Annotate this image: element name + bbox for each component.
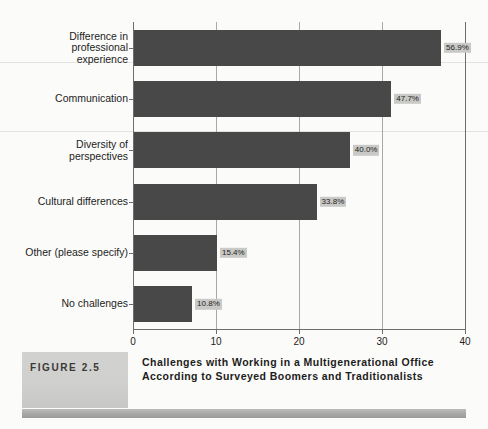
x-tick-label-10: 10 [210,336,221,347]
bar [134,184,317,220]
gridline-20 [299,22,300,330]
y-tick-mark [129,48,134,49]
decorative-footer-bar [22,409,466,418]
bar [134,30,441,66]
category-label: No challenges [0,299,128,311]
bar-row: 10.8% [134,286,466,322]
x-tick-mark-10 [216,329,217,334]
category-label: Other (please specify) [0,247,128,259]
bar [134,81,391,117]
gridline-30 [382,22,383,330]
bar [134,286,192,322]
x-tick-label-0: 0 [130,336,136,347]
bar-row: 56.9% [134,30,466,66]
bar-value-label: 56.9% [444,42,471,52]
x-tick-label-40: 40 [459,336,470,347]
y-tick-mark [129,304,134,305]
y-tick-mark [129,99,134,100]
bar [134,132,350,168]
gridline-10 [216,22,217,330]
bar-row: 40.0% [134,132,466,168]
bar-row: 47.7% [134,81,466,117]
bar-value-label: 40.0% [353,145,380,155]
bar-row: 33.8% [134,184,466,220]
x-tick-mark-20 [299,329,300,334]
y-tick-mark [129,150,134,151]
bar-value-label: 15.4% [220,248,247,258]
x-tick-label-30: 30 [376,336,387,347]
bar [134,235,217,271]
x-tick-mark-0 [133,329,134,334]
bar-value-label: 33.8% [320,196,347,206]
category-label: Diversity of perspectives [0,139,128,162]
gridline-40 [465,22,466,330]
category-label: Cultural differences [0,196,128,208]
figure-caption: Challenges with Working in a Multigenera… [142,355,472,383]
x-tick-mark-30 [382,329,383,334]
bar-value-label: 47.7% [394,94,421,104]
category-label: Difference in professional experience [0,30,128,65]
y-tick-mark [129,253,134,254]
x-tick-label-20: 20 [293,336,304,347]
y-tick-mark [129,202,134,203]
bar-value-label: 10.8% [195,299,222,309]
category-label: Communication [0,93,128,105]
bar-row: 15.4% [134,235,466,271]
x-tick-mark-40 [465,329,466,334]
y-axis-line [133,22,134,330]
figure-tag-box: FIGURE 2.5 [22,352,128,408]
bar-chart: 010203040 56.9%47.7%40.0%33.8%15.4%10.8%… [0,0,488,348]
figure-tag-label: FIGURE 2.5 [30,362,100,373]
